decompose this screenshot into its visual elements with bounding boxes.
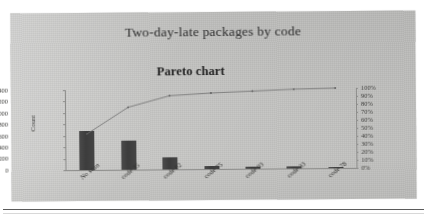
cumulative-point [210, 92, 212, 94]
y-axis-right-tick-label: 30% [361, 140, 401, 147]
y-axis-left-tick-label: 1200 [0, 99, 8, 106]
y-axis-right-tick-mark [356, 136, 358, 137]
page-divider-rule [3, 209, 424, 210]
y-axis-right-tick-mark [356, 120, 358, 121]
y-axis-left-tick-mark [63, 124, 65, 125]
y-axis-right-tick-mark [356, 88, 358, 89]
y-axis-right-tick-mark [356, 128, 358, 129]
cumulative-point [334, 87, 336, 89]
y-axis-right-tick-label: 0% [361, 164, 401, 171]
y-axis-left-tick-mark [63, 113, 65, 114]
y-axis-right-tick-label: 10% [361, 156, 401, 163]
y-axis-right-tick-mark [356, 112, 358, 113]
y-axis-right-tick-label: 70% [361, 108, 401, 115]
y-axis-left-tick-label: 400 [0, 145, 8, 152]
y-axis-right-tick-label: 100% [361, 84, 401, 91]
y-axis-left-tick-label: 600 [0, 133, 8, 140]
cumulative-point [127, 106, 129, 108]
chart-main-title: Two-day-late packages by code [10, 22, 415, 41]
y-axis-left-tick-label: 1400 [0, 87, 8, 94]
chart-sub-title: Pareto chart [11, 63, 371, 81]
screenshot-page: Two-day-late packages by code Pareto cha… [0, 0, 427, 219]
page-divider-shadow [3, 213, 424, 214]
y-axis-left-tick-mark [63, 147, 65, 148]
x-axis-category-labels: No scancode 35code 02code 75code 03code … [10, 10, 415, 13]
y-axis-right-tick-label: 90% [361, 92, 401, 99]
y-axis-left-tick-mark [63, 136, 65, 137]
y-axis-right-tick-label: 50% [361, 124, 401, 131]
cumulative-point [251, 90, 253, 92]
y-axis-right-tick-mark [356, 96, 358, 97]
plot-area: 0200400600800100012001400 0%10%20%30%40%… [66, 88, 357, 170]
y-axis-left-tick-mark [63, 90, 65, 91]
y-axis-left-tick-label: 1000 [0, 110, 8, 117]
y-axis-right-tick-mark [356, 152, 358, 153]
cumulative-point [86, 133, 88, 135]
y-axis-left-tick-label: 200 [0, 156, 8, 163]
y-axis-right-tick-mark [356, 160, 358, 161]
y-axis-left-tick-mark [63, 170, 65, 171]
cumulative-point [169, 95, 171, 97]
y-axis-right-tick-mark [356, 168, 358, 169]
cumulative-percent-line [66, 88, 357, 171]
y-axis-left-tick-mark [63, 102, 65, 103]
cumulative-point [293, 88, 295, 90]
y-axis-left-tick-label: 0 [0, 167, 9, 174]
y-axis-right-tick-label: 20% [361, 148, 401, 155]
y-axis-right-tick-label: 60% [361, 116, 401, 123]
y-axis-left-tick-label: 800 [0, 122, 8, 129]
y-axis-right-tick-mark [356, 104, 358, 105]
pareto-chart-figure: Two-day-late packages by code Pareto cha… [10, 10, 416, 201]
y-axis-title: Count [29, 115, 36, 131]
y-axis-left-tick-mark [63, 159, 65, 160]
y-axis-right-tick-label: 40% [361, 132, 401, 139]
y-axis-right-tick-label: 80% [361, 100, 401, 107]
y-axis-right-tick-mark [356, 144, 358, 145]
